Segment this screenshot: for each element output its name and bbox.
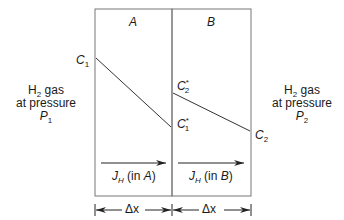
c1-star-subscript: 1 <box>185 124 189 133</box>
dimension-a-label: Δx <box>125 203 139 216</box>
region-b-box <box>172 9 251 196</box>
c1-star-label: C*1 <box>177 118 189 131</box>
c1-symbol: C <box>76 53 85 67</box>
region-a-label: A <box>129 16 137 29</box>
right-gas-pressure: P2 <box>262 110 342 123</box>
region-b-label: B <box>207 16 215 29</box>
c1-label: C1 <box>76 54 89 67</box>
dimension-b-label: Δx <box>202 203 216 216</box>
c2-star-subscript: 2 <box>185 86 189 95</box>
c2-label: C2 <box>255 129 268 142</box>
right-gas-label: H2 gas at pressure P2 <box>262 84 342 123</box>
flux-b-text: (in <box>201 169 221 183</box>
concentration-profile-a <box>96 58 171 127</box>
flux-label-b: JH (in B) <box>189 170 233 183</box>
flux-a-region: A <box>144 169 152 183</box>
c1-subscript: 1 <box>85 60 89 69</box>
c2-symbol: C <box>255 128 264 142</box>
c2-star-label: C*2 <box>177 80 189 93</box>
flux-a-text: (in <box>124 169 144 183</box>
c2-subscript: 2 <box>264 135 268 144</box>
flux-b-close: ) <box>229 169 233 183</box>
flux-b-region: B <box>221 169 229 183</box>
left-gas-label: H2 gas at pressure P1 <box>6 84 86 123</box>
region-a-box <box>95 9 172 196</box>
left-gas-pressure: P1 <box>6 110 86 123</box>
flux-label-a: JH (in A) <box>112 170 156 183</box>
flux-a-close: ) <box>152 169 156 183</box>
